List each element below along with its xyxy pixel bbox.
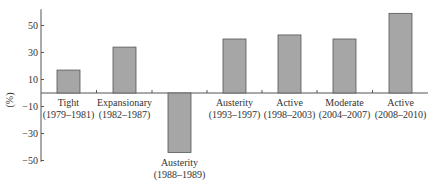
- y-tick-label: 50: [28, 20, 38, 31]
- x-tick-label: Active: [387, 97, 414, 108]
- x-tick-label: Tight: [58, 97, 80, 108]
- bar: [333, 39, 356, 93]
- x-tick-label: Austerity: [216, 97, 253, 108]
- y-axis-label: (%): [4, 93, 16, 108]
- x-tick-sublabel: (1988–1989): [154, 169, 206, 181]
- x-tick-label: Austerity: [161, 157, 198, 168]
- bar: [113, 47, 136, 93]
- bar: [278, 35, 301, 93]
- x-tick-sublabel: (1979–1981): [43, 109, 95, 121]
- bar: [389, 13, 412, 93]
- bar: [168, 93, 191, 152]
- x-tick-sublabel: (1982–1987): [99, 109, 151, 121]
- x-tick-sublabel: (2008–2010): [375, 109, 427, 121]
- x-tick-sublabel: (2004–2007): [319, 109, 371, 121]
- bar-chart: 503010−10−30−50 Tight(1979–1981)Expansio…: [0, 0, 438, 188]
- x-axis-labels: Tight(1979–1981)Expansionary(1982–1987)A…: [43, 97, 427, 181]
- y-tick-label: 10: [28, 74, 38, 85]
- bars: [57, 13, 412, 152]
- y-tick-label: 30: [28, 47, 38, 58]
- bar: [57, 70, 80, 93]
- bar: [223, 39, 246, 93]
- y-tick-label: −50: [22, 155, 38, 166]
- y-tick-label: −30: [22, 128, 38, 139]
- x-tick-sublabel: (1998–2003): [264, 109, 316, 121]
- x-tick-label: Expansionary: [97, 97, 152, 108]
- x-tick-label: Active: [276, 97, 303, 108]
- y-tick-label: −10: [22, 101, 38, 112]
- x-tick-label: Moderate: [325, 97, 364, 108]
- x-tick-sublabel: (1993–1997): [209, 109, 261, 121]
